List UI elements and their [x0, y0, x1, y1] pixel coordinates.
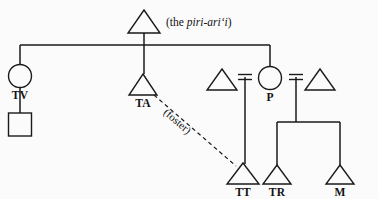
- foster-dashed-line: [154, 95, 236, 166]
- kinship-diagram-figure: TV TA P TT TR M (the piri-ari‘i) (foster…: [0, 0, 378, 199]
- apex-annotation-suffix: ): [228, 16, 232, 29]
- node-apex-triangle: [128, 10, 160, 33]
- node-label-m: M: [334, 186, 345, 198]
- node-p-circle: [259, 67, 282, 90]
- node-label-ta: TA: [135, 97, 151, 109]
- node-tr-triangle: [263, 165, 291, 184]
- foster-annotation: (foster): [161, 106, 194, 137]
- node-label-tv: TV: [12, 89, 29, 101]
- node-p-husband2-triangle: [305, 69, 335, 90]
- apex-annotation-term: piri-ari‘i: [186, 16, 228, 29]
- apex-annotation-prefix: (the: [166, 16, 187, 29]
- node-p-husband1-triangle: [207, 69, 237, 90]
- node-tt-triangle: [227, 163, 259, 184]
- apex-annotation: (the piri-ari‘i): [166, 16, 232, 29]
- node-m-triangle: [326, 165, 354, 184]
- node-label-tt: TT: [235, 186, 251, 198]
- node-ta-triangle: [129, 74, 157, 95]
- kinship-diagram-canvas: TV TA P TT TR M (the piri-ari‘i) (foster…: [0, 0, 378, 199]
- node-label-p: P: [266, 91, 273, 103]
- node-tv-child-square: [9, 113, 32, 136]
- node-tv-circle: [9, 65, 32, 88]
- node-label-tr: TR: [269, 186, 286, 198]
